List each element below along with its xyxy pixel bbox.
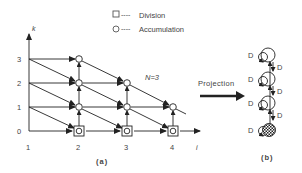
i-tick-1: 1: [26, 143, 30, 152]
delay-label: D: [248, 75, 254, 84]
division-node: [122, 126, 132, 136]
accumulation-node: [124, 80, 131, 87]
edge: [130, 109, 168, 128]
accumulation-node: [76, 80, 83, 87]
edge: [82, 109, 122, 128]
accumulation-legend-circle-icon: [113, 26, 119, 32]
accumulation-legend-label: Accumulation: [139, 25, 184, 34]
panel-b-caption: (b): [261, 153, 274, 162]
accumulation-node: [76, 104, 83, 111]
delay-label: D: [277, 87, 283, 96]
division-pe-node: [259, 124, 276, 137]
delay-label: D: [277, 111, 283, 120]
division-legend-dashes: ----: [121, 11, 131, 18]
panel-b-projected-graph: [259, 48, 276, 137]
edge: [82, 85, 123, 105]
panel-a-dependence-graph: [29, 34, 200, 136]
k-tick-1: 1: [17, 103, 21, 112]
accumulation-pe-node: [259, 48, 276, 62]
projection-label: Projection: [198, 79, 234, 88]
i-tick-2: 2: [76, 143, 80, 152]
projection-arrow-icon: [200, 91, 245, 101]
edge: [176, 109, 186, 114]
i-axis-label: i: [196, 144, 198, 151]
accumulation-pe-node: [259, 72, 276, 86]
edge: [130, 85, 169, 105]
delay-label: D: [248, 51, 254, 60]
k-tick-3: 3: [17, 55, 21, 64]
n-annotation: N=3: [145, 73, 160, 82]
division-node: [168, 126, 178, 136]
accumulation-node: [76, 56, 83, 63]
k-tick-0: 0: [17, 127, 21, 136]
edge: [29, 83, 75, 105]
accumulation-node: [124, 104, 131, 111]
i-tick-4: 4: [170, 143, 174, 152]
diagram-canvas: ---- Division ---- Accumulation: [0, 0, 302, 173]
k-tick-2: 2: [17, 79, 21, 88]
accumulation-pe-node: [259, 96, 276, 110]
panel-a-caption: (a): [96, 157, 108, 166]
edge: [29, 107, 74, 128]
division-legend-label: Division: [139, 11, 165, 20]
division-legend-square-icon: [113, 11, 119, 17]
delay-label: D: [248, 126, 254, 135]
delay-label: D: [248, 99, 254, 108]
delay-label: D: [277, 63, 283, 72]
edge: [29, 59, 75, 81]
k-axis-label: k: [32, 25, 36, 32]
division-node: [74, 126, 84, 136]
edge: [82, 61, 123, 81]
accumulation-node: [170, 104, 177, 111]
i-tick-3: 3: [124, 143, 128, 152]
legend: ---- Division ---- Accumulation: [113, 11, 184, 34]
accumulation-legend-dashes: ----: [121, 25, 131, 32]
